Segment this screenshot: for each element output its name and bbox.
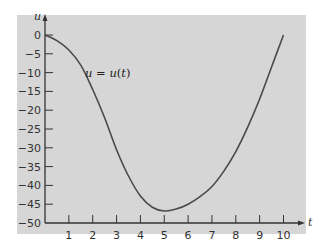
y-tick-label: −35: [18, 161, 41, 174]
x-tick-label: 4: [137, 229, 144, 242]
x-tick-label: 5: [161, 229, 168, 242]
y-tick-label: −30: [18, 142, 41, 155]
curve-label: u = u(t): [85, 66, 130, 80]
y-tick-label: −40: [18, 179, 41, 192]
x-tick-label: 1: [65, 229, 72, 242]
x-tick-label: 6: [185, 229, 192, 242]
y-axis-label: u: [34, 10, 41, 23]
y-tick-label: −5: [25, 48, 41, 61]
x-tick-label: 7: [208, 229, 215, 242]
x-axis-label: t: [308, 216, 313, 229]
x-axis-arrow-icon: [298, 221, 305, 226]
x-tick-label: 3: [113, 229, 120, 242]
y-tick-label: −50: [18, 217, 41, 230]
curve-u-of-t: [45, 35, 284, 211]
y-tick-label: −45: [18, 198, 41, 211]
y-tick-label: −20: [18, 104, 41, 117]
y-tick-label: −10: [18, 67, 41, 80]
y-axis-arrow-icon: [43, 14, 48, 21]
y-tick-label: 0: [34, 29, 41, 42]
x-tick-label: 8: [232, 229, 239, 242]
line-chart: ut0−5−10−15−20−25−30−35−40−45−5012345678…: [0, 0, 320, 248]
y-tick-label: −25: [18, 123, 41, 136]
x-tick-label: 10: [277, 229, 291, 242]
x-tick-label: 2: [89, 229, 96, 242]
y-tick-label: −15: [18, 85, 41, 98]
x-tick-label: 9: [256, 229, 263, 242]
